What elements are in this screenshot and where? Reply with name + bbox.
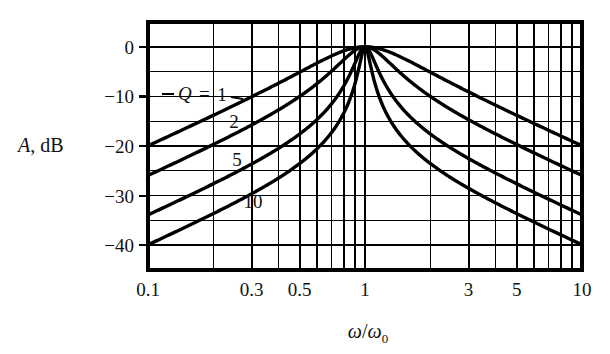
y-axis-label-A: A — [16, 134, 31, 156]
bode-magnitude-chart: 0.10.30.513510 0−10−20−30−40 12510 ω/ω0 … — [0, 0, 610, 354]
x-axis-tick-label: 1 — [360, 279, 370, 300]
y-axis-label: A, dB — [16, 134, 64, 156]
q-equals-sign: = — [199, 83, 210, 104]
curve-label: 5 — [232, 149, 242, 170]
x-axis-tick-label: 0.1 — [136, 279, 160, 300]
y-axis-tick-label: −40 — [104, 235, 134, 256]
y-axis-label-rest: , dB — [30, 134, 63, 156]
y-axis-tick-label: −30 — [104, 186, 134, 207]
x-axis-tick-label: 5 — [512, 279, 522, 300]
q-symbol: Q — [178, 83, 192, 104]
curve-label: 10 — [244, 191, 263, 212]
chart-background — [0, 0, 610, 354]
x-axis-label-omega-sub: ω — [368, 320, 382, 342]
curve-label: 2 — [229, 111, 239, 132]
x-axis-label-subscript: 0 — [382, 331, 389, 346]
x-axis-tick-label: 10 — [573, 279, 592, 300]
figure-container: 0.10.30.513510 0−10−20−30−40 12510 ω/ω0 … — [0, 0, 610, 354]
x-axis-tick-label: 0.3 — [240, 279, 264, 300]
x-axis-tick-label: 0.5 — [288, 279, 312, 300]
x-axis-label-omega: ω — [348, 320, 362, 342]
y-axis-tick-label: −20 — [104, 136, 134, 157]
y-axis-tick-label: −10 — [104, 86, 134, 107]
y-axis-tick-label: 0 — [125, 37, 135, 58]
x-axis-tick-label: 3 — [464, 279, 474, 300]
curve-label: 1 — [217, 84, 227, 105]
